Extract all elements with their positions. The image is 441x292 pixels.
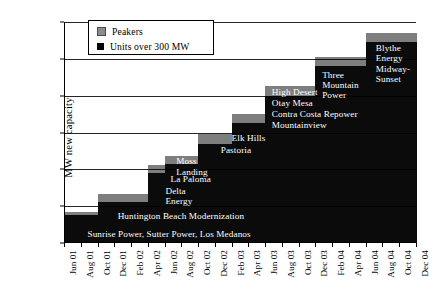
- x-axis-tick-mark: [114, 243, 115, 247]
- x-axis-tick-label: Aug 03: [286, 250, 296, 278]
- x-axis-tick-label: Dec 04: [420, 250, 430, 277]
- plant-label: Moss Landing: [176, 156, 207, 176]
- gridline: [64, 169, 416, 170]
- x-axis-tick-mark: [382, 243, 383, 247]
- y-axis-tick-mark: [60, 95, 64, 96]
- legend-swatch-icon: [97, 43, 104, 50]
- x-axis-tick-mark: [248, 243, 249, 247]
- x-axis-tick-mark: [148, 243, 149, 247]
- x-axis-tick-mark: [349, 243, 350, 247]
- x-axis-tick-label: Dec 02: [219, 250, 229, 277]
- x-axis-tick-mark: [98, 243, 99, 247]
- x-axis-tick-label: Feb 04: [336, 250, 346, 276]
- legend: Peakers Units over 300 MW: [88, 20, 214, 55]
- x-axis-tick-label: Jun 04: [370, 250, 380, 275]
- y-axis-tick-mark: [60, 58, 64, 59]
- x-axis-tick-label: Aug 01: [85, 250, 95, 278]
- legend-swatch-icon: [97, 27, 106, 36]
- plant-label: Blythe Energy Midway- Sunset: [376, 43, 410, 84]
- x-axis-tick-mark: [265, 243, 266, 247]
- plant-label: High Desert Otay Mesa: [272, 87, 318, 107]
- gridline: [64, 206, 416, 207]
- x-axis-tick-label: Oct 03: [303, 250, 313, 275]
- x-axis-tick-mark: [282, 243, 283, 247]
- y-axis-tick-mark: [60, 169, 64, 170]
- x-axis-tick-label: Jun 03: [269, 250, 279, 275]
- plant-label: Pastoria: [221, 145, 251, 155]
- x-axis-tick-mark: [215, 243, 216, 247]
- x-axis-tick-mark: [64, 243, 65, 247]
- x-axis-tick-label: Apr 04: [353, 250, 363, 276]
- gridline: [64, 59, 416, 60]
- plant-label: Delta Energy: [165, 186, 192, 206]
- legend-item-peakers: Peakers: [97, 24, 213, 39]
- x-axis-tick-mark: [299, 243, 300, 247]
- legend-label: Peakers: [112, 26, 143, 37]
- plant-label: Three Mountain Power: [322, 70, 359, 101]
- legend-label: Units over 300 MW: [110, 41, 190, 52]
- x-axis-tick-mark: [81, 243, 82, 247]
- x-axis-tick-label: Dec 03: [319, 250, 329, 277]
- x-axis-tick-mark: [131, 243, 132, 247]
- x-axis-tick-mark: [198, 243, 199, 247]
- x-axis-tick-mark: [332, 243, 333, 247]
- x-axis-tick-mark: [399, 243, 400, 247]
- x-axis-tick-label: Oct 04: [403, 250, 413, 275]
- x-axis-tick-label: Aug 02: [185, 250, 195, 278]
- x-axis-tick-label: Feb 02: [135, 250, 145, 276]
- x-axis-tick-mark: [315, 243, 316, 247]
- plant-label: Huntington Beach Modernization: [118, 211, 245, 221]
- y-axis-tick-mark: [60, 132, 64, 133]
- x-axis-tick-label: Oct 01: [102, 250, 112, 275]
- legend-item-units-over-300mw: Units over 300 MW: [97, 39, 213, 54]
- x-axis-tick-label: Feb 03: [236, 250, 246, 276]
- y-axis-tick-mark: [60, 206, 64, 207]
- x-axis-tick-mark: [232, 243, 233, 247]
- x-axis-tick-label: Dec 01: [118, 250, 128, 277]
- x-axis-tick-mark: [366, 243, 367, 247]
- y-axis-ticks: 02,0004,0006,0008,00010,00012,000: [0, 0, 60, 292]
- plant-label: Elk Hills: [232, 133, 266, 143]
- x-axis-tick-label: Apr 03: [252, 250, 262, 276]
- x-axis-tick-mark: [416, 243, 417, 247]
- y-axis-tick-mark: [60, 243, 64, 244]
- x-axis-tick-mark: [181, 243, 182, 247]
- x-axis-tick-mark: [165, 243, 166, 247]
- x-axis-tick-label: Oct 02: [202, 250, 212, 275]
- chart-figure: 02,0004,0006,0008,00010,00012,000 MW new…: [0, 0, 441, 292]
- plant-label: Sunrise Power, Sutter Power, Los Medanos: [87, 229, 250, 239]
- plant-label: Contra Costa Repower: [272, 109, 358, 119]
- x-axis-tick-label: Aug 04: [386, 250, 396, 278]
- gridline: [64, 96, 416, 97]
- x-axis-tick-label: Jun 01: [68, 250, 78, 275]
- x-axis-tick-label: Apr 02: [152, 250, 162, 276]
- x-axis-tick-label: Jun 02: [169, 250, 179, 275]
- plant-label: Mountainview: [272, 120, 327, 130]
- y-axis-tick-mark: [60, 22, 64, 23]
- y-axis-title: MW new capacity: [63, 58, 74, 218]
